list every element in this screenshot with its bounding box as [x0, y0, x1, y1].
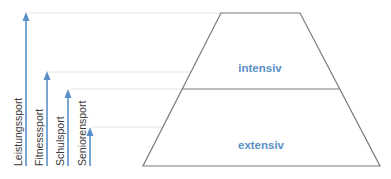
sport-intensity-diagram: intensiv extensiv Leistungssport Fitness…: [0, 0, 391, 179]
level-label-extensiv: extensiv: [238, 139, 285, 151]
arrowhead-icon: [65, 89, 72, 98]
sport-label-fitnesssport: Fitnesssport: [33, 109, 45, 166]
sport-label-schulsport: Schulsport: [54, 116, 66, 166]
sport-label-seniorensport: Seniorensport: [76, 101, 88, 166]
level-label-intensiv: intensiv: [238, 62, 282, 74]
arrowhead-icon: [44, 71, 51, 80]
sport-label-leistungssport: Leistungssport: [12, 98, 24, 166]
arrowhead-icon: [23, 12, 30, 21]
